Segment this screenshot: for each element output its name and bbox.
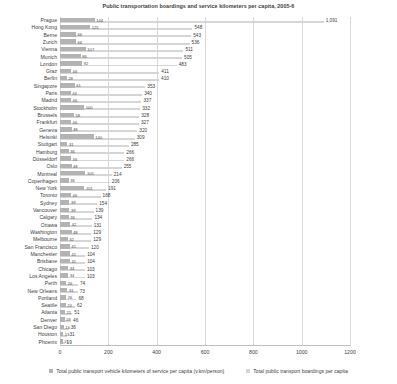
value-label-vkm: 26 [68,280,73,287]
chart-row: Portland2668 [60,295,350,302]
bar-vkm [60,171,85,175]
gridline [350,17,351,346]
value-label-boardings: 73 [80,288,85,295]
value-label-boardings: 139 [96,207,104,214]
bar-vkm [60,281,66,285]
bar-vkm [60,105,84,109]
bar-vkm [60,164,72,168]
bar-vkm [60,251,70,255]
category-label: Graz [46,68,57,75]
category-label: Brussels [37,112,57,119]
value-label-boardings: 104 [87,251,95,258]
chart-row: Copenhagen36206 [60,178,350,185]
value-label-vkm: 46 [73,156,78,163]
chart-row: Denver1946 [60,317,350,324]
value-label-boardings: 1,091 [326,17,338,24]
bar-vkm [60,339,63,343]
category-label: Vancouver [33,207,57,214]
chart-row: Toronto46168 [60,192,350,199]
bar-vkm [60,230,72,234]
chart-row: Stuttgart31285 [60,141,350,148]
category-label: London [40,61,57,68]
category-label: Copenhagen [28,178,57,185]
legend-swatch-vkm-icon [49,369,53,373]
x-tick-label: 800 [249,349,258,355]
value-label-boardings: 103 [87,266,95,273]
value-label-vkm: 101 [86,185,93,192]
value-label-vkm: 41 [71,258,76,265]
chart-row: San Francisco41120 [60,244,350,251]
chart-row: Vancouver39139 [60,207,350,214]
chart-row: San Diego1636 [60,324,350,331]
value-label-boardings: 536 [192,39,200,46]
bar-vkm [60,193,71,197]
value-label-vkm: 19 [66,316,71,323]
category-label: New York [35,185,57,192]
value-label-vkm: 46 [73,68,78,75]
chart-row: Montreal105214 [60,171,350,178]
value-label-boardings: 191 [108,185,116,192]
value-label-vkm: 46 [73,192,78,199]
value-label-boardings: 328 [141,112,149,119]
category-label: Perth [45,280,57,287]
chart-row: Brussels58328 [60,112,350,119]
legend-swatch-boardings-icon [246,369,250,373]
chart-row: Madrid46337 [60,97,350,104]
chart-row: Washington48129 [60,229,350,236]
bar-vkm [60,134,94,138]
value-label-boardings: 134 [94,214,102,221]
bar-vkm [60,25,90,29]
value-label-vkm: 58 [76,112,81,119]
category-label: Portland [38,295,57,302]
value-label-vkm: 34 [70,265,75,272]
bar-boardings [60,130,137,132]
chart-row: London92483 [60,61,350,68]
value-label-vkm: 41 [71,251,76,258]
value-label-boardings: 309 [137,134,145,141]
bar-vkm [60,142,67,146]
category-label: Hamburg [36,149,57,156]
category-label: Montreal [37,171,57,178]
chart-row: Graz46411 [60,68,350,75]
legend-label-boardings: Total public transport boardings per cap… [253,368,348,374]
chart-row: Paris44340 [60,90,350,97]
value-label-boardings: 410 [161,75,169,82]
bar-vkm [60,295,66,299]
value-label-boardings: 266 [126,149,134,156]
chart-row: Singapore61353 [60,83,350,90]
value-label-boardings: 154 [99,200,107,207]
value-label-vkm: 46 [73,97,78,104]
bar-vkm [60,237,68,241]
value-label-vkm: 39 [71,199,76,206]
category-label: Seattle [41,302,57,309]
category-label: Oslo [47,163,57,170]
x-tick-label: 200 [104,349,113,355]
chart-row: Los Angeles34103 [60,273,350,280]
x-tick-label: 400 [152,349,161,355]
value-label-vkm: 39 [71,207,76,214]
category-label: Zurich [43,39,57,46]
category-label: Washington [30,229,57,236]
value-label-vkm: 66 [77,31,82,38]
value-label-boardings: 255 [124,163,132,170]
value-label-vkm: 21 [67,309,72,316]
chart-row: Hong Kong125548 [60,24,350,31]
category-label: Frankfurt [37,119,57,126]
bar-rows: Prague1441,091Hong Kong125548Berne66543Z… [60,17,350,346]
bar-vkm [60,244,70,248]
value-label-vkm: 31 [69,287,74,294]
value-label-vkm: 44 [72,90,77,97]
chart-row: Oslo48255 [60,163,350,170]
value-label-boardings: 340 [144,90,152,97]
chart-row: Perth2674 [60,280,350,287]
value-label-vkm: 105 [87,170,94,177]
value-label-vkm: 36 [70,148,75,155]
value-label-vkm: 32 [69,236,74,243]
category-label: Stockholm [33,105,57,112]
legend-item-vkm: Total public transport vehicle kilometer… [49,368,224,374]
chart-row: Houston1331 [60,331,350,338]
value-label-boardings: 68 [78,295,83,302]
value-label-boardings: 74 [80,280,85,287]
x-tick-label: 0 [59,349,62,355]
category-label: Düsseldorf [33,156,57,163]
